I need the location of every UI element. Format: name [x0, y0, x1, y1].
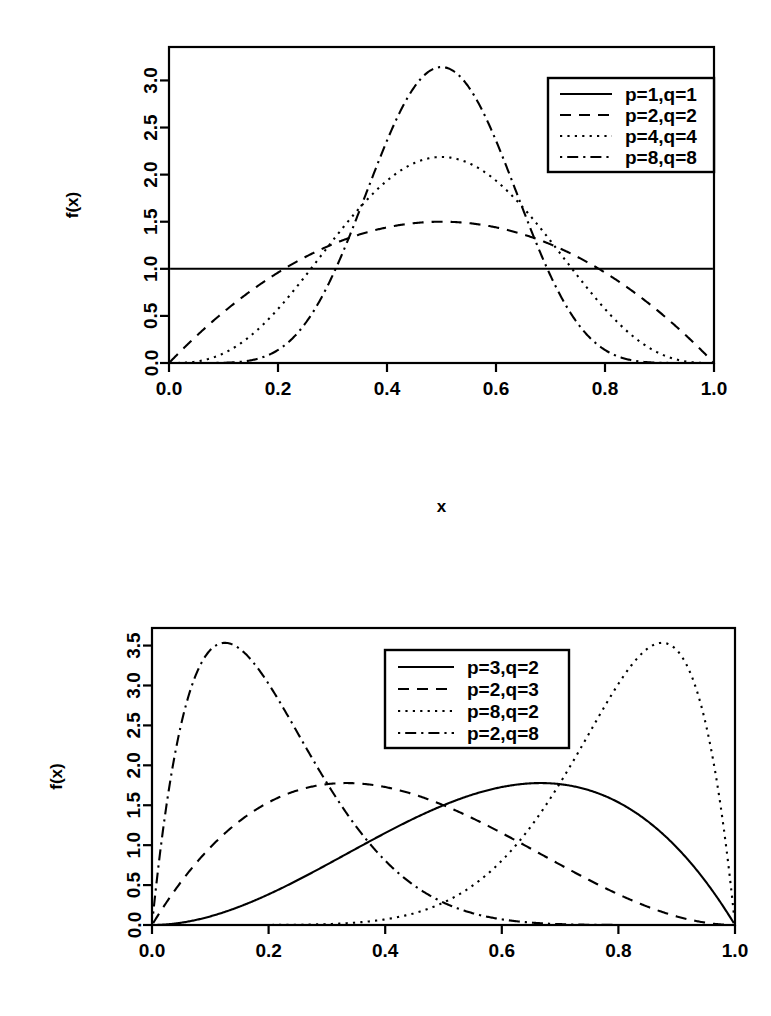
x-tick-label: 0.8 — [605, 940, 631, 961]
y-tick-label: 3.0 — [124, 672, 145, 698]
y-tick-label: 0.5 — [141, 302, 162, 329]
y-tick-label: 0.0 — [124, 912, 145, 938]
legend-entry-label: p=8,q=2 — [467, 701, 539, 722]
y-tick-label: 3.5 — [124, 632, 145, 659]
beta-skewed-plot: 0.00.20.40.60.81.00.00.51.01.52.02.53.03… — [0, 540, 771, 1016]
y-tick-label: 1.0 — [141, 256, 162, 282]
x-tick-label: 0.4 — [372, 940, 399, 961]
y-axis-title: f(x) — [63, 192, 82, 218]
x-tick-label: 0.8 — [592, 378, 618, 399]
x-tick-label: 0.2 — [265, 378, 291, 399]
y-tick-label: 2.0 — [124, 752, 145, 778]
x-tick-label: 1.0 — [722, 940, 748, 961]
beta-symmetric-plot: 0.00.20.40.60.81.00.00.51.01.52.02.53.0x… — [0, 0, 771, 540]
x-tick-label: 0.6 — [489, 940, 515, 961]
beta-skewed-figure: 0.00.20.40.60.81.00.00.51.01.52.02.53.03… — [0, 540, 771, 1016]
y-tick-label: 1.0 — [124, 832, 145, 858]
y-tick-label: 1.5 — [124, 792, 145, 819]
chart-legend: p=1,q=1p=2,q=2p=4,q=4p=8,q=8 — [548, 78, 714, 172]
series-curve — [170, 157, 713, 363]
x-axis-title: x — [437, 497, 447, 516]
x-tick-label: 0.2 — [255, 940, 281, 961]
y-tick-label: 3.0 — [141, 67, 162, 93]
chart-legend: p=3,q=2p=2,q=3p=8,q=2p=2,q=8 — [385, 650, 569, 748]
series-curve — [153, 783, 734, 925]
y-tick-label: 1.5 — [141, 208, 162, 235]
legend-entry-label: p=1,q=1 — [625, 84, 697, 105]
y-axis-title: f(x) — [47, 763, 66, 789]
x-tick-label: 1.0 — [701, 378, 727, 399]
legend-entry-label: p=2,q=3 — [467, 679, 539, 700]
y-tick-label: 0.5 — [124, 871, 145, 898]
legend-entry-label: p=2,q=2 — [625, 105, 697, 126]
y-tick-label: 0.0 — [141, 350, 162, 376]
y-tick-label: 2.0 — [141, 161, 162, 187]
x-tick-label: 0.6 — [483, 378, 509, 399]
legend-entry-label: p=2,q=8 — [467, 723, 539, 744]
legend-entry-label: p=4,q=4 — [625, 126, 697, 147]
legend-entry-label: p=3,q=2 — [467, 657, 539, 678]
y-tick-label: 2.5 — [141, 114, 162, 141]
x-tick-label: 0.0 — [156, 378, 182, 399]
series-curve — [170, 222, 713, 362]
legend-entry-label: p=8,q=8 — [625, 147, 697, 168]
beta-symmetric-figure: 0.00.20.40.60.81.00.00.51.01.52.02.53.0x… — [0, 0, 771, 540]
x-tick-label: 0.0 — [139, 940, 165, 961]
x-tick-label: 0.4 — [374, 378, 401, 399]
y-tick-label: 2.5 — [124, 712, 145, 739]
